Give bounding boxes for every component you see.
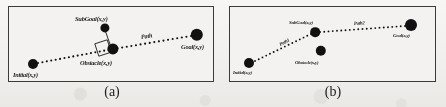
subfigure-caption-a: (a) <box>84 84 140 100</box>
subfigure-caption-b: (b) <box>305 84 361 100</box>
node-subgoal-label: SubGoal(x,y) <box>75 16 108 22</box>
node-initial-label: Initial(x,y) <box>13 72 38 78</box>
node-initial-label: Initial(x,y) <box>233 71 252 76</box>
diagram-panel-b: Initial(x,y) SubGoal(x,y) Obstacle(x,y) … <box>229 6 436 82</box>
path2-label: Path2 <box>354 21 365 27</box>
node-goal-marker <box>405 19 417 31</box>
panel-b-vector-layer <box>230 7 435 81</box>
node-goal-label: Goal(x,y) <box>181 44 204 50</box>
node-obstacle-label: Obstacle(x,y) <box>80 60 112 66</box>
node-obstacle-label: Obstacle(x,y) <box>295 61 318 66</box>
panel-b-canvas: Initial(x,y) SubGoal(x,y) Obstacle(x,y) … <box>230 7 435 81</box>
diagram-panel-a: Initial(x,y) SubGoal(x,y) Obstacle(x,y) … <box>8 6 214 82</box>
panel-a-canvas: Initial(x,y) SubGoal(x,y) Obstacle(x,y) … <box>9 7 213 81</box>
figure-root: Initial(x,y) SubGoal(x,y) Obstacle(x,y) … <box>0 0 446 107</box>
node-initial-marker <box>244 58 254 68</box>
node-goal-label: Goal(x,y) <box>393 34 410 39</box>
node-subgoal-label: SubGoal(x,y) <box>289 21 313 26</box>
node-initial-marker <box>28 59 38 69</box>
node-subgoal-marker <box>310 27 320 37</box>
